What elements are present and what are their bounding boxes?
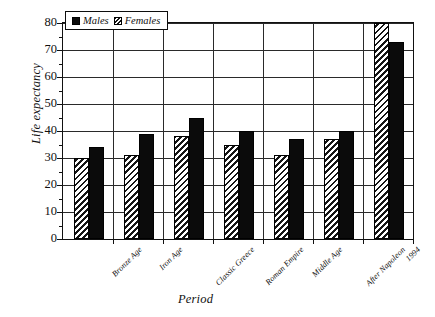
bar-males bbox=[389, 42, 404, 239]
bar-females bbox=[274, 155, 289, 239]
x-axis-title: Period bbox=[0, 292, 435, 307]
x-category-label: Middle Age bbox=[310, 245, 344, 279]
x-tick-mark-5 bbox=[313, 239, 314, 244]
y-tick-label-30: 30 bbox=[21, 151, 57, 164]
x-tick-mark-7 bbox=[413, 239, 414, 244]
legend-label-males: Males bbox=[83, 15, 109, 26]
bar-group bbox=[163, 23, 213, 239]
bar-males bbox=[289, 139, 304, 239]
x-category-label: Roman Empire bbox=[264, 245, 306, 287]
y-tick-label-50: 50 bbox=[21, 97, 57, 110]
x-category-label: Iron Age bbox=[158, 245, 185, 272]
bar-group bbox=[213, 23, 263, 239]
y-tick-label-10: 10 bbox=[21, 205, 57, 218]
bar-group bbox=[113, 23, 163, 239]
bar-males bbox=[89, 147, 104, 239]
bar-group bbox=[363, 23, 413, 239]
bar-males bbox=[189, 118, 204, 240]
bar-females bbox=[374, 23, 389, 239]
x-tick-mark-4 bbox=[263, 239, 264, 244]
x-tick-mark-3 bbox=[213, 239, 214, 244]
x-tick-mark-1 bbox=[113, 239, 114, 244]
x-category-label: Classic Greece bbox=[214, 245, 256, 287]
legend-entry-males: Males bbox=[72, 15, 109, 26]
bar-females bbox=[224, 145, 239, 240]
x-tick-mark-2 bbox=[163, 239, 164, 244]
x-category-label: After Napoleon bbox=[364, 245, 407, 288]
legend-label-females: Females bbox=[125, 15, 161, 26]
x-category-label: Bronze Age bbox=[110, 245, 144, 279]
x-category-label: 1994 bbox=[404, 245, 422, 263]
legend-entry-females: Females bbox=[114, 15, 161, 26]
plot-area bbox=[62, 22, 414, 240]
legend-swatch-males-icon bbox=[72, 17, 80, 25]
bar-group bbox=[63, 23, 113, 239]
bar-females bbox=[174, 136, 189, 239]
y-tick-label-60: 60 bbox=[21, 70, 57, 83]
bar-males bbox=[339, 131, 354, 239]
bar-males bbox=[239, 131, 254, 239]
legend-swatch-females-icon bbox=[114, 17, 122, 25]
bar-females bbox=[124, 155, 139, 239]
bar-group bbox=[313, 23, 363, 239]
bar-females bbox=[324, 139, 339, 239]
y-tick-label-40: 40 bbox=[21, 124, 57, 137]
y-tick-mark-0 bbox=[57, 239, 63, 240]
y-tick-label-0: 0 bbox=[21, 232, 57, 245]
y-tick-label-80: 80 bbox=[21, 16, 57, 29]
y-tick-label-20: 20 bbox=[21, 178, 57, 191]
y-tick-label-70: 70 bbox=[21, 43, 57, 56]
bar-males bbox=[139, 134, 154, 239]
x-axis-title-text: Period bbox=[178, 292, 213, 306]
x-tick-mark-6 bbox=[363, 239, 364, 244]
bar-females bbox=[74, 158, 89, 239]
life-expectancy-bar-chart: Life expectancy Period Males Females 010… bbox=[0, 0, 435, 317]
bar-group bbox=[263, 23, 313, 239]
legend: Males Females bbox=[65, 11, 168, 30]
